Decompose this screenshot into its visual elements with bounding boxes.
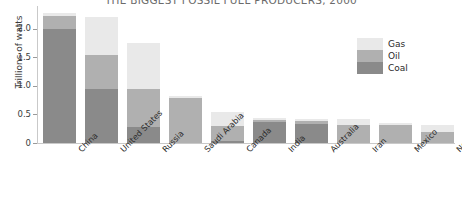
bar-segment-oil[interactable] [43, 16, 76, 29]
x-tick-label: United States [118, 147, 125, 154]
legend-label-gas: Gas [388, 38, 405, 50]
bar-australia[interactable] [295, 6, 328, 143]
x-tick-label: Iran [370, 147, 377, 154]
bar-segment-gas[interactable] [379, 123, 412, 125]
x-tick-label: Australia [328, 147, 335, 154]
legend-label-coal: Coal [388, 62, 408, 74]
x-tick-label: China [76, 147, 83, 154]
bar-china[interactable] [43, 6, 76, 143]
y-tick-label: 1.0 [7, 81, 31, 90]
legend-label-oil: Oil [388, 50, 400, 62]
legend-swatch-gas[interactable] [357, 38, 383, 50]
legend-swatch-oil[interactable] [357, 50, 383, 62]
chart-page: THE BIGGEST FOSSIL FUEL PRODUCERS, 2000 … [0, 0, 462, 209]
bar-segment-gas[interactable] [169, 96, 202, 99]
y-tick-label: 0 [7, 139, 31, 148]
bar-segment-gas[interactable] [85, 17, 118, 54]
x-tick-label: Russia [160, 147, 167, 154]
y-tick-label: 2.0 [7, 24, 31, 33]
bar-india[interactable] [253, 6, 286, 143]
legend-swatch-coal[interactable] [357, 62, 383, 74]
bar-segment-gas[interactable] [43, 13, 76, 16]
y-tick-label: 1.5 [7, 53, 31, 62]
x-tick-label: Saudi Arabia [202, 147, 209, 154]
plot-area [38, 6, 458, 143]
x-tick-label: India [286, 147, 293, 154]
bar-united-states[interactable] [85, 6, 118, 143]
bar-segment-oil[interactable] [85, 55, 118, 89]
bar-segment-oil[interactable] [295, 121, 328, 124]
bar-segment-gas[interactable] [295, 119, 328, 121]
x-tick-label: Norway [454, 147, 461, 154]
x-tick-label: Canada [244, 147, 251, 154]
x-tick-label: Mexico [412, 147, 419, 154]
y-tick-label: 0.5 [7, 110, 31, 119]
bar-segment-oil[interactable] [253, 120, 286, 123]
bar-norway[interactable] [421, 6, 454, 143]
bar-mexico[interactable] [379, 6, 412, 143]
bar-segment-gas[interactable] [127, 43, 160, 89]
bar-segment-coal[interactable] [43, 29, 76, 143]
bar-saudi-arabia[interactable] [169, 6, 202, 143]
bar-segment-gas[interactable] [253, 118, 286, 119]
